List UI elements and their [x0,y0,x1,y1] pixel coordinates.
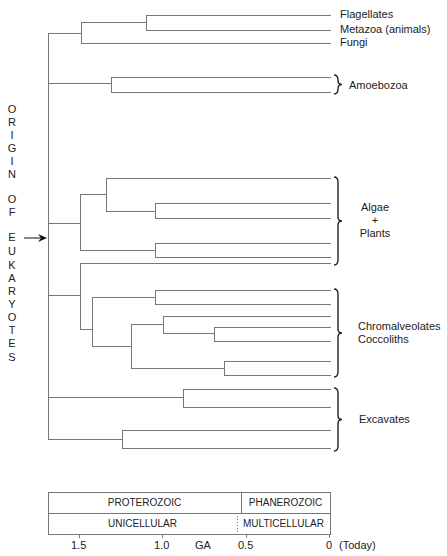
clade-label-line: Excavates [359,413,410,426]
axis-tick-label: 1.5 [71,539,86,551]
curly-brace-icon [334,75,342,94]
clade-label-line: + [355,214,395,227]
curly-brace-icon [334,177,342,265]
clade-label-chromalveolates: ChromalveolatesCoccoliths [358,320,441,346]
side-title-letter: O [5,311,19,323]
side-title-letter: N [5,168,19,180]
clade-label-line: Coccoliths [358,333,441,346]
side-title-letter: E [5,337,19,349]
side-title-letter: O [5,193,19,205]
side-title-letter: E [5,231,19,243]
side-title-letter: R [5,285,19,297]
tip-label-flagellates: Flagellates [340,8,393,20]
today-label: (Today) [339,539,376,551]
side-title-letter: Y [5,298,19,310]
clade-label-line: Plants [355,227,395,240]
timeline-cell-unicellular: UNICELLULAR [48,513,237,534]
clade-label-amoebozoa: Amoebozoa [349,79,408,92]
side-title-letter: I [5,155,19,167]
tip-label-metazoa: Metazoa (animals) [340,23,430,35]
clade-label-line: Amoebozoa [349,79,408,92]
timeline-cell-phanerozoic: PHANEROZOIC [241,492,330,513]
tip-label-fungi: Fungi [340,36,368,48]
curly-brace-icon [334,388,342,451]
side-title-letter: U [5,245,19,257]
side-title-letter: K [5,259,19,271]
side-title-letter: A [5,272,19,284]
axis-tick-label: 1.0 [154,539,169,551]
side-title-letter: R [5,116,19,128]
axis-tick-label: 0 [326,539,332,551]
timeline-cell-proterozoic: PROTEROZOIC [48,492,241,513]
side-title-letter: T [5,324,19,336]
timeline-cell-multicellular: MULTICELLULAR [237,513,330,534]
clade-label-excavates: Excavates [359,413,410,426]
axis-unit-label: GA [195,539,211,551]
phylogeny-figure: ORIGINOFEUKARYOTES FlagellatesMetazoa (a… [0,0,447,556]
curly-brace-icon [334,289,342,377]
side-title-letter: I [5,129,19,141]
clade-label-algae-plants: Algae+Plants [355,201,395,240]
axis-tick-label: 0.5 [238,539,253,551]
side-title-letter: S [5,351,19,363]
side-title-letter: F [5,206,19,218]
side-title-letter: O [5,103,19,115]
side-title-letter: G [5,142,19,154]
clade-label-line: Algae [355,201,395,214]
clade-label-line: Chromalveolates [358,320,441,333]
